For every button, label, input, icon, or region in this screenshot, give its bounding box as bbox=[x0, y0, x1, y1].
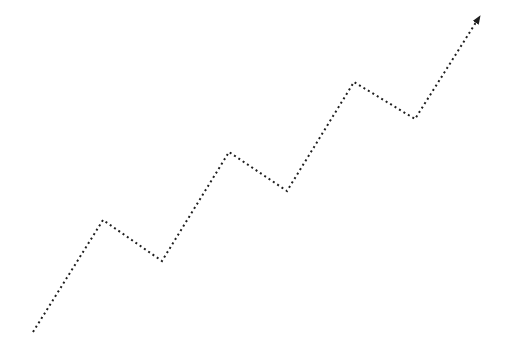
diagram-canvas bbox=[0, 0, 514, 362]
zigzag-trend-arrow bbox=[0, 0, 514, 362]
